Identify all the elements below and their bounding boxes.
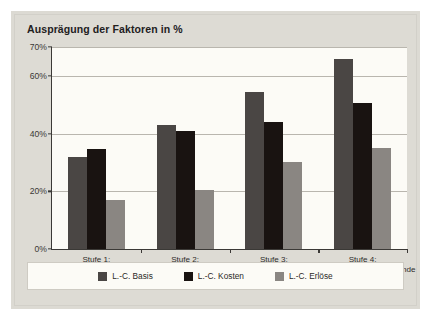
chart-figure-inner: Ausprägung der Faktoren in % 0%20%40%60%… bbox=[14, 14, 417, 306]
bar bbox=[334, 59, 353, 249]
bar bbox=[106, 200, 125, 249]
legend-item-erloese: L.-C. Erlöse bbox=[275, 271, 333, 281]
legend-label-basis: L.-C. Basis bbox=[112, 271, 153, 281]
x-axis-tick-mark bbox=[141, 249, 142, 253]
chart-figure: Ausprägung der Faktoren in % 0%20%40%60%… bbox=[11, 11, 420, 309]
y-axis-tick-label: 0% bbox=[35, 244, 47, 254]
legend-swatch-icon-basis bbox=[98, 272, 107, 281]
y-axis-tick-mark bbox=[48, 133, 52, 134]
y-axis-tick-mark bbox=[48, 191, 52, 192]
x-axis-tick-mark bbox=[230, 249, 231, 253]
bar bbox=[68, 157, 87, 249]
legend-swatch-icon-erloese bbox=[275, 272, 284, 281]
chart-title: Ausprägung der Faktoren in % bbox=[27, 23, 183, 35]
legend-label-erloese: L.-C. Erlöse bbox=[289, 271, 333, 281]
y-axis-tick-label: 70% bbox=[30, 42, 47, 52]
bar bbox=[157, 125, 176, 249]
y-axis-tick-label: 40% bbox=[30, 129, 47, 139]
bar bbox=[245, 92, 264, 249]
gridline bbox=[52, 47, 407, 48]
legend-item-basis: L.-C. Basis bbox=[98, 271, 153, 281]
bar bbox=[176, 131, 195, 249]
legend-label-kosten: L.-C. Kosten bbox=[198, 271, 244, 281]
y-axis-tick-mark bbox=[48, 248, 52, 249]
y-axis-tick-label: 20% bbox=[30, 186, 47, 196]
bar bbox=[372, 148, 391, 249]
bar bbox=[353, 103, 372, 249]
y-axis-tick-mark bbox=[48, 75, 52, 76]
plot-area: 0%20%40%60%70%Stufe 1:„TUL-Logistik“Stuf… bbox=[51, 47, 407, 250]
x-axis-tick-mark bbox=[318, 249, 319, 253]
bar bbox=[283, 162, 302, 249]
legend-item-kosten: L.-C. Kosten bbox=[184, 271, 244, 281]
y-axis-tick-mark bbox=[48, 46, 52, 47]
legend-swatch-icon-kosten bbox=[184, 272, 193, 281]
chart-legend: L.-C. Basis L.-C. Kosten L.-C. Erlöse bbox=[27, 262, 404, 290]
x-axis-tick-mark bbox=[407, 249, 408, 253]
y-axis-tick-label: 60% bbox=[30, 71, 47, 81]
bar bbox=[87, 149, 106, 249]
bar bbox=[264, 122, 283, 249]
gridline bbox=[52, 76, 407, 77]
bar bbox=[195, 190, 214, 249]
